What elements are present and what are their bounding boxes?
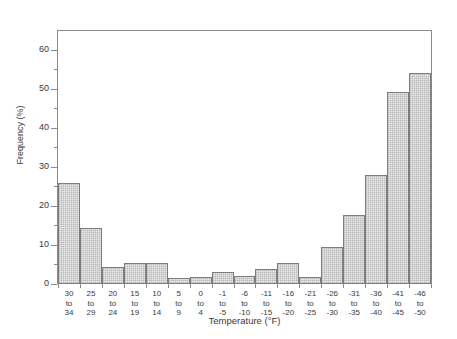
x-tick-label: -1to-5 — [212, 289, 234, 318]
y-tick-mark — [51, 167, 57, 168]
y-tick-label: 40 — [39, 122, 49, 133]
bar — [277, 263, 299, 284]
x-tick-label-line: 0 — [190, 289, 212, 299]
y-tick-mark — [51, 50, 57, 51]
bar — [212, 272, 234, 284]
x-tick-label: -41to-45 — [387, 289, 409, 318]
y-tick-label: 50 — [39, 83, 49, 94]
y-tick-mark — [54, 69, 58, 70]
x-tick-label: -6to-10 — [234, 289, 256, 318]
x-tick-mark — [255, 284, 256, 288]
y-tick-mark — [51, 206, 57, 207]
x-tick-label-line: 25 — [80, 289, 102, 299]
bar — [321, 247, 343, 284]
y-axis: 0102030405060 — [0, 30, 57, 284]
y-tick-label: 60 — [39, 44, 49, 55]
x-tick-mark — [277, 284, 278, 288]
x-tick-label-line: -31 — [343, 289, 365, 299]
bar — [234, 276, 256, 284]
x-tick-label: 30to34 — [58, 289, 80, 318]
x-tick-mark — [212, 284, 213, 288]
x-tick-label-line: -16 — [277, 289, 299, 299]
x-tick-label-line: to — [321, 299, 343, 309]
x-tick-mark — [234, 284, 235, 288]
x-tick-label-line: 30 — [58, 289, 80, 299]
y-tick-mark — [54, 186, 58, 187]
x-tick-label-line: 15 — [124, 289, 146, 299]
x-tick-label-line: -41 — [387, 289, 409, 299]
bar-series — [58, 31, 431, 284]
y-tick-mark — [54, 225, 58, 226]
y-tick-mark — [51, 89, 57, 90]
y-axis-title: Frequency (%) — [15, 55, 25, 215]
x-tick-label-line: -21 — [299, 289, 321, 299]
x-tick-label: 5to9 — [168, 289, 190, 318]
x-tick-mark — [124, 284, 125, 288]
y-tick-mark — [54, 108, 58, 109]
x-tick-label: 20to24 — [102, 289, 124, 318]
bar — [365, 175, 387, 284]
x-tick-label: 0to4 — [190, 289, 212, 318]
x-tick-label-line: to — [234, 299, 256, 309]
x-tick-label-line: to — [212, 299, 234, 309]
bar — [299, 277, 321, 284]
x-tick-label-line: to — [299, 299, 321, 309]
x-tick-label: -21to-25 — [299, 289, 321, 318]
x-tick-label: 15to19 — [124, 289, 146, 318]
x-tick-label: 10to14 — [146, 289, 168, 318]
x-tick-label-line: -26 — [321, 289, 343, 299]
y-tick-label: 10 — [39, 239, 49, 250]
x-tick-mark — [190, 284, 191, 288]
x-tick-label-line: -11 — [255, 289, 277, 299]
bar — [124, 263, 146, 284]
x-tick-mark — [102, 284, 103, 288]
histogram-chart: 0102030405060 Frequency (%) 30to3425to29… — [0, 0, 457, 339]
x-tick-mark — [365, 284, 366, 288]
bar — [80, 228, 102, 284]
y-tick-mark — [51, 128, 57, 129]
x-tick-label-line: -1 — [212, 289, 234, 299]
x-tick-label-line: -46 — [409, 289, 431, 299]
x-tick-label-line: to — [387, 299, 409, 309]
x-tick-mark — [431, 284, 432, 288]
x-tick-label-line: to — [409, 299, 431, 309]
x-tick-mark — [409, 284, 410, 288]
x-tick-label-line: 20 — [102, 289, 124, 299]
bar — [102, 267, 124, 284]
x-tick-label-line: to — [80, 299, 102, 309]
y-tick-label: 0 — [44, 278, 49, 289]
x-tick-label: -36to-40 — [365, 289, 387, 318]
x-tick-mark — [168, 284, 169, 288]
x-tick-label-line: to — [168, 299, 190, 309]
x-axis: 30to3425to2920to2415to1910to145to90to4-1… — [58, 284, 431, 336]
x-tick-label-line: -36 — [365, 289, 387, 299]
x-tick-label: -31to-35 — [343, 289, 365, 318]
x-tick-label: -26to-30 — [321, 289, 343, 318]
x-tick-mark — [321, 284, 322, 288]
y-tick-label: 30 — [39, 161, 49, 172]
x-axis-title: Temperature (°F) — [57, 315, 432, 326]
x-tick-label-line: to — [190, 299, 212, 309]
x-tick-mark — [80, 284, 81, 288]
x-tick-label-line: to — [277, 299, 299, 309]
y-tick-mark — [51, 245, 57, 246]
y-tick-mark — [54, 264, 58, 265]
x-tick-label-line: 5 — [168, 289, 190, 299]
x-tick-label-line: to — [102, 299, 124, 309]
x-tick-mark — [387, 284, 388, 288]
x-tick-label-line: to — [124, 299, 146, 309]
x-tick-label-line: to — [146, 299, 168, 309]
y-tick-label: 20 — [39, 200, 49, 211]
bar — [190, 277, 212, 284]
x-tick-label: -11to-15 — [255, 289, 277, 318]
x-tick-mark — [343, 284, 344, 288]
bar — [146, 263, 168, 284]
x-tick-label: 25to29 — [80, 289, 102, 318]
y-tick-mark — [51, 284, 57, 285]
x-tick-label-line: to — [58, 299, 80, 309]
y-tick-mark — [54, 147, 58, 148]
x-tick-mark — [58, 284, 59, 288]
x-tick-label-line: 10 — [146, 289, 168, 299]
x-tick-label-line: to — [343, 299, 365, 309]
x-tick-label-line: to — [255, 299, 277, 309]
